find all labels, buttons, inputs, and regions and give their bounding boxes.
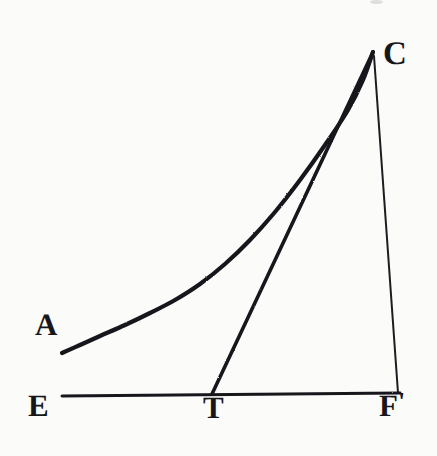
vertex-label-a: A [35,309,57,340]
curve-AC-path [62,52,373,353]
vertex-label-f: F [379,390,398,421]
vertex-label-f-prime-mark: ' [398,389,405,415]
vertex-label-e: E [28,390,49,421]
vertex-label-c: C [383,38,407,71]
tangent-TC-path [212,52,373,394]
geometric-diagram [0,0,437,456]
figure-container: A C E T F ' [0,0,437,456]
ordinate-CF-path [374,56,398,393]
baseline-EF-path [62,393,400,396]
vertex-label-t: T [203,392,224,423]
